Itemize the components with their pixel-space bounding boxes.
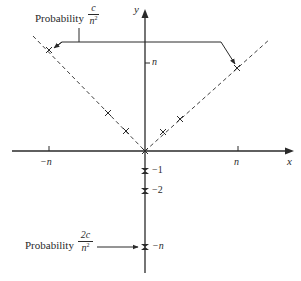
x-tick-label-n: n [234,157,239,167]
x-axis-arrow-icon [285,148,294,155]
fraction-denominator: n2 [88,16,99,26]
fraction-numerator: c [88,3,99,13]
y-axis-arrow-icon [142,9,149,18]
dashed-diagonals [33,36,270,151]
x-marker-icon [234,65,240,71]
top-probability-fraction: c n2 [88,3,99,26]
x-tick-label-neg-n: −n [40,157,52,167]
denominator-base: n [90,15,95,26]
x-axis [12,146,294,155]
probability-distribution-diagram: y x −n n n −1 −2 −n Probability c n2 Pro… [0,0,301,281]
fraction-denominator: n2 [78,243,93,253]
y-tick-label-neg-n: −n [152,241,164,251]
y-tick-label-n: n [152,57,157,67]
right-diagonal-line [145,39,270,151]
x-marker-icon [141,188,149,194]
fraction-numerator: 2c [78,230,93,240]
x-marker-icon [177,116,183,122]
bottom-probability-fraction: 2c n2 [78,230,93,253]
y-axis [142,9,151,273]
denominator-exponent: 2 [87,242,90,248]
y-tick-label-neg-2: −2 [152,185,163,195]
bracket-left-arrow [54,42,62,48]
y-tick-label-neg-1: −1 [152,165,163,175]
bottom-probability-label: Probability [25,240,74,251]
y-axis-label: y [134,4,139,15]
denominator-base: n [82,242,87,253]
x-marker-icon [141,244,149,250]
denominator-exponent: 2 [95,15,98,21]
x-axis-label: x [287,156,292,167]
diagonal-markers [46,47,240,154]
x-marker-icon [141,168,149,174]
x-marker-icon [160,129,166,135]
top-probability-label: Probability [35,13,84,24]
x-marker-icon [123,128,129,134]
x-marker-icon [105,110,111,116]
